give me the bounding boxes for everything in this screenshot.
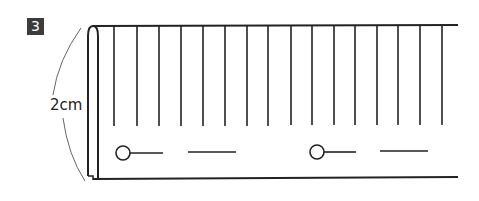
buttonhole-marking-2 bbox=[310, 145, 428, 159]
stitch-lines bbox=[114, 25, 442, 126]
buttonhole-marking-1 bbox=[116, 146, 236, 160]
top-edge bbox=[93, 25, 458, 26]
fold-inner-edge bbox=[88, 176, 93, 180]
bottom-edge bbox=[93, 177, 458, 179]
fold-edge bbox=[88, 26, 98, 180]
dimension-arc bbox=[53, 28, 81, 95]
dimension-arc-lower bbox=[63, 118, 85, 181]
dimension-label: 2cm bbox=[49, 96, 83, 114]
